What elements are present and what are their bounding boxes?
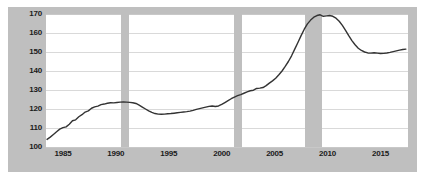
x-tick-label-1985: 1985 <box>41 150 85 158</box>
recession-band-recession-2008 <box>305 14 322 147</box>
gridline-y-110 <box>46 128 408 129</box>
x-tick-label-2015: 2015 <box>358 150 402 158</box>
gridline-y-150 <box>46 52 408 53</box>
gridline-y-160 <box>46 33 408 34</box>
recession-band-recession-1990 <box>121 14 128 147</box>
recession-band-recession-2001 <box>234 14 241 147</box>
gridline-y-100 <box>46 147 408 148</box>
gridline-y-120 <box>46 109 408 110</box>
x-tick-label-2000: 2000 <box>200 150 244 158</box>
y-tick-label-110: 110 <box>6 124 42 132</box>
y-tick-label-100: 100 <box>6 143 42 151</box>
gridline-y-130 <box>46 90 408 91</box>
gridline-y-170 <box>46 14 408 15</box>
y-tick-label-140: 140 <box>6 67 42 75</box>
y-tick-label-120: 120 <box>6 105 42 113</box>
y-tick-label-130: 130 <box>6 86 42 94</box>
y-tick-label-150: 150 <box>6 48 42 56</box>
x-tick-label-1990: 1990 <box>94 150 138 158</box>
x-tick-label-2005: 2005 <box>253 150 297 158</box>
x-tick-label-1995: 1995 <box>147 150 191 158</box>
x-tick-label-2010: 2010 <box>306 150 350 158</box>
y-tick-label-160: 160 <box>6 29 42 37</box>
chart-figure: 100110120130140150160170 198519901995200… <box>0 0 425 179</box>
gridline-y-140 <box>46 71 408 72</box>
y-tick-label-170: 170 <box>6 10 42 18</box>
